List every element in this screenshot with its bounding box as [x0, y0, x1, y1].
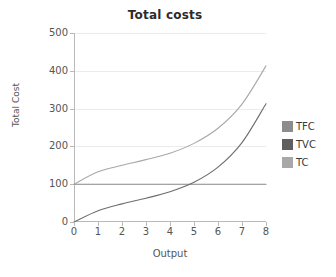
- legend-item-tc[interactable]: TC: [282, 154, 336, 170]
- y-axis-tick-label: 0: [28, 217, 68, 227]
- y-axis-tick-label: 100: [28, 179, 68, 189]
- x-axis-title: Output: [74, 248, 266, 259]
- chart-title: Total costs: [60, 8, 270, 22]
- x-axis-tick-label: 0: [65, 226, 83, 237]
- legend-item-tvc[interactable]: TVC: [282, 136, 336, 152]
- y-axis-tick-label: 400: [28, 66, 68, 76]
- legend-label: TC: [296, 157, 309, 168]
- x-axis-tick-mark: [74, 222, 75, 226]
- y-axis-title: Total Cost: [11, 65, 21, 145]
- x-axis-tick-mark: [122, 222, 123, 226]
- legend-label: TVC: [296, 139, 316, 150]
- series-curves: [74, 33, 266, 222]
- legend-label: TFC: [296, 121, 315, 132]
- x-axis-tick-mark: [98, 222, 99, 226]
- legend-swatch-icon: [282, 121, 293, 132]
- x-axis-tick-mark: [218, 222, 219, 226]
- x-axis-tick-mark: [194, 222, 195, 226]
- legend-item-tfc[interactable]: TFC: [282, 118, 336, 134]
- x-axis-tick-mark: [242, 222, 243, 226]
- y-axis-tick-label: 500: [28, 28, 68, 38]
- y-axis-tick-label: 300: [28, 104, 68, 114]
- x-axis-tick-label: 6: [209, 226, 227, 237]
- legend-swatch-icon: [282, 157, 293, 168]
- chart-legend: TFCTVCTC: [282, 118, 336, 172]
- total-costs-chart: Total costs Total Cost 0100200300400500 …: [0, 0, 336, 277]
- x-axis-tick-label: 7: [233, 226, 251, 237]
- x-axis-tick-label: 2: [113, 226, 131, 237]
- x-axis-tick-mark: [170, 222, 171, 226]
- x-axis-tick-label: 3: [137, 226, 155, 237]
- series-line-tc: [74, 66, 266, 184]
- x-axis-tick-label: 5: [185, 226, 203, 237]
- x-axis-tick-label: 8: [257, 226, 275, 237]
- x-axis-tick-mark: [146, 222, 147, 226]
- series-line-tvc: [74, 104, 266, 222]
- plot-area: [74, 33, 266, 222]
- y-axis-tick-label: 200: [28, 141, 68, 151]
- legend-swatch-icon: [282, 139, 293, 150]
- x-axis-tick-label: 1: [89, 226, 107, 237]
- x-axis-tick-label: 4: [161, 226, 179, 237]
- x-axis-tick-mark: [266, 222, 267, 226]
